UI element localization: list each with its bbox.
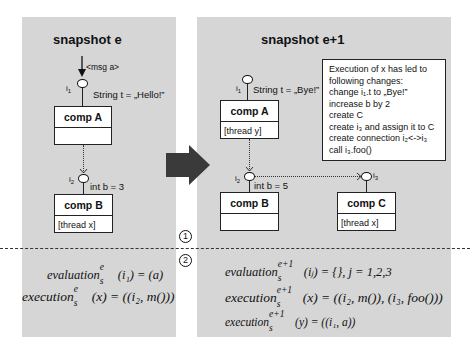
right-panel-title: snapshot e+1 xyxy=(261,32,344,47)
component-comp-a[interactable]: comp A [thread y] xyxy=(220,100,279,139)
component-thread: [thread x] xyxy=(338,214,395,232)
component-name: comp B xyxy=(55,195,112,216)
interface-i3-label: i3 xyxy=(373,171,378,181)
interface-i1-label: i1 xyxy=(236,84,241,94)
connector-line xyxy=(83,183,84,194)
comp-a-attribute: String t = „Hello!” xyxy=(93,89,165,100)
interface-i1-icon xyxy=(242,75,253,84)
formula-execution-e: executiones(x) = ((i₂, m())) xyxy=(22,289,175,305)
component-name: comp B xyxy=(221,193,278,214)
message-label: <msg a> xyxy=(86,62,119,72)
component-comp-c[interactable]: comp C [thread x] xyxy=(337,192,396,231)
component-name: comp A xyxy=(221,101,278,122)
interface-i1-label: i1 xyxy=(66,84,71,94)
note-line: create connection i₂<->i₃ xyxy=(329,133,439,145)
note-line: create i₃ and assign it to C xyxy=(329,122,439,134)
interface-i2-icon xyxy=(78,174,89,183)
connector-line xyxy=(366,181,367,192)
transition-arrow-icon xyxy=(166,145,212,185)
note-line: Execution of x has led to xyxy=(329,64,439,76)
component-thread xyxy=(221,214,278,218)
interface-i1-icon xyxy=(77,79,88,88)
note-line: change i₁.t to „Bye!” xyxy=(329,87,439,99)
component-thread xyxy=(55,128,111,132)
interface-i2-label: i2 xyxy=(69,175,74,185)
formula-evaluation-e: evaluationes(i₁) = (a) xyxy=(47,268,163,283)
marker-1: 1 xyxy=(179,230,192,243)
message-arrow-icon xyxy=(78,56,86,78)
comp-a-attribute: String t = „Bye!” xyxy=(253,84,319,95)
interface-i3-icon xyxy=(361,172,372,181)
connector-line xyxy=(82,88,83,106)
interface-i2-label: i2 xyxy=(235,174,240,184)
note-line: following changes: xyxy=(329,76,439,88)
formula-execution-e1-x: executione+1s(x) = ((i₂, m()), (i₃, foo(… xyxy=(225,290,443,306)
comp-b-attribute: int b = 5 xyxy=(254,180,288,191)
execution-changes-note: Execution of x has led to following chan… xyxy=(322,59,446,161)
connection-i2-i3-line xyxy=(255,176,360,177)
divider-line xyxy=(0,248,470,249)
formula-execution-e1-y: executione+1s(y) = ((i₁, a)) xyxy=(225,316,355,328)
component-comp-a[interactable]: comp A xyxy=(54,106,112,145)
note-line: create C xyxy=(329,110,439,122)
formula-evaluation-e1: evaluatione+1s(iⱼ) = {}, j = 1,2,3 xyxy=(225,264,392,280)
connector-line xyxy=(247,84,248,100)
component-name: comp A xyxy=(55,107,111,128)
connector-line xyxy=(249,181,250,192)
note-line: increase b by 2 xyxy=(329,99,439,111)
component-thread: [thread x] xyxy=(55,216,112,234)
component-thread: [thread y] xyxy=(221,122,278,140)
component-comp-b[interactable]: comp B xyxy=(220,192,279,231)
component-comp-b[interactable]: comp B [thread x] xyxy=(54,194,113,233)
left-panel-title: snapshot e xyxy=(53,32,122,47)
marker-2: 2 xyxy=(179,254,192,267)
comp-b-attribute: int b = 3 xyxy=(90,181,124,192)
note-line: call i₃.foo() xyxy=(329,145,439,157)
component-name: comp C xyxy=(338,193,395,214)
